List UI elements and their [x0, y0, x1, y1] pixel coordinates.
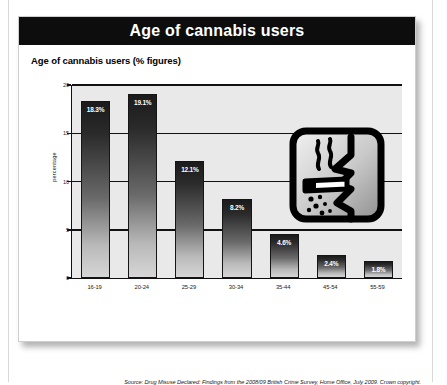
bar: 12.1% — [175, 161, 204, 278]
title-bar: Age of cannabis users — [19, 17, 415, 45]
x-axis-tick-label: 30-34 — [212, 284, 259, 290]
bar: 19.1% — [128, 94, 157, 278]
y-axis-tick-mark — [67, 277, 71, 279]
y-axis-tick-label: 5 — [39, 227, 69, 233]
y-axis-tick-mark — [67, 133, 71, 135]
bar-value-label: 19.1% — [129, 99, 156, 106]
page-rule-left — [8, 0, 9, 382]
x-axis-tick-label: 25-29 — [165, 284, 212, 290]
bar-value-label: 18.3% — [82, 106, 109, 113]
y-axis-tick-label: 10 — [39, 179, 69, 185]
bar: 8.2% — [222, 199, 251, 278]
y-axis-tick-label: 20 — [39, 82, 69, 88]
bar: 4.6% — [270, 234, 299, 278]
bar-chart: percentage 18.3%19.1%12.1%8.2%4.6%2.4%1.… — [31, 79, 403, 314]
y-axis-tick-mark — [67, 181, 71, 183]
smoking-joint-icon — [289, 127, 385, 223]
chart-card: Age of cannabis users Age of cannabis us… — [18, 16, 416, 342]
y-axis-tick-mark — [67, 84, 71, 86]
x-axis-tick-label: 45-54 — [307, 284, 354, 290]
gridline — [72, 84, 402, 86]
bar-value-label: 8.2% — [223, 204, 250, 211]
x-axis-tick-label: 16-19 — [71, 284, 118, 290]
x-axis-tick-label: 20-24 — [118, 284, 165, 290]
x-axis-tick-label: 55-59 — [354, 284, 401, 290]
bar-value-label: 12.1% — [176, 166, 203, 173]
y-axis-tick-mark — [67, 229, 71, 231]
chart-subtitle: Age of cannabis users (% figures) — [31, 55, 181, 66]
bar: 18.3% — [81, 101, 110, 278]
page-title: Age of cannabis users — [19, 17, 415, 45]
bar: 1.8% — [364, 261, 393, 278]
bar: 2.4% — [317, 255, 346, 278]
bar-value-label: 1.8% — [365, 266, 392, 273]
source-note: Source: Drug Misuse Declared: Findings f… — [31, 379, 421, 385]
x-axis-tick-label: 35-44 — [260, 284, 307, 290]
page-rule-right — [432, 0, 433, 382]
bar-value-label: 2.4% — [318, 260, 345, 267]
y-axis-tick-label: 15 — [39, 130, 69, 136]
y-axis-tick-label: 0 — [39, 275, 69, 281]
bar-value-label: 4.6% — [271, 239, 298, 246]
y-axis-label: percentage — [51, 137, 57, 197]
